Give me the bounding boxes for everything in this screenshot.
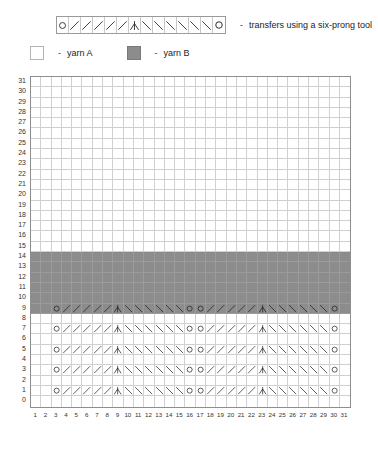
chart-cell[interactable]: [155, 170, 165, 180]
chart-cell[interactable]: [196, 77, 206, 87]
chart-cell[interactable]: [299, 262, 309, 272]
chart-cell[interactable]: [247, 221, 257, 231]
chart-cell[interactable]: [299, 242, 309, 252]
chart-cell[interactable]: [82, 355, 92, 365]
chart-cell[interactable]: [340, 118, 350, 128]
chart-cell[interactable]: [52, 304, 62, 314]
chart-cell[interactable]: [52, 118, 62, 128]
chart-cell[interactable]: [216, 345, 226, 355]
chart-cell[interactable]: [72, 324, 82, 334]
chart-cell[interactable]: [309, 211, 319, 221]
chart-cell[interactable]: [216, 273, 226, 283]
chart-cell[interactable]: [113, 118, 123, 128]
chart-cell[interactable]: [237, 355, 247, 365]
chart-cell[interactable]: [330, 180, 340, 190]
chart-cell[interactable]: [278, 324, 288, 334]
chart-cell[interactable]: [227, 396, 237, 406]
chart-cell[interactable]: [62, 159, 72, 169]
chart-cell[interactable]: [330, 242, 340, 252]
chart-cell[interactable]: [185, 108, 195, 118]
chart-cell[interactable]: [93, 334, 103, 344]
chart-cell[interactable]: [165, 211, 175, 221]
chart-cell[interactable]: [155, 221, 165, 231]
chart-cell[interactable]: [237, 128, 247, 138]
chart-cell[interactable]: [268, 190, 278, 200]
chart-cell[interactable]: [155, 190, 165, 200]
chart-cell[interactable]: [72, 211, 82, 221]
chart-cell[interactable]: [258, 293, 268, 303]
chart-cell[interactable]: [165, 77, 175, 87]
chart-cell[interactable]: [237, 273, 247, 283]
chart-cell[interactable]: [319, 139, 329, 149]
chart-cell[interactable]: [144, 376, 154, 386]
chart-cell[interactable]: [185, 149, 195, 159]
chart-cell[interactable]: [175, 87, 185, 97]
chart-cell[interactable]: [258, 118, 268, 128]
chart-cell[interactable]: [299, 149, 309, 159]
chart-cell[interactable]: [93, 190, 103, 200]
chart-cell[interactable]: [299, 324, 309, 334]
chart-cell[interactable]: [165, 345, 175, 355]
chart-cell[interactable]: [41, 118, 51, 128]
chart-cell[interactable]: [52, 190, 62, 200]
chart-cell[interactable]: [124, 262, 134, 272]
chart-cell[interactable]: [247, 190, 257, 200]
chart-cell[interactable]: [52, 87, 62, 97]
chart-cell[interactable]: [82, 180, 92, 190]
chart-cell[interactable]: [268, 211, 278, 221]
chart-cell[interactable]: [82, 396, 92, 406]
chart-cell[interactable]: [134, 386, 144, 396]
chart-cell[interactable]: [319, 293, 329, 303]
chart-cell[interactable]: [52, 139, 62, 149]
chart-cell[interactable]: [258, 376, 268, 386]
chart-cell[interactable]: [227, 262, 237, 272]
chart-cell[interactable]: [41, 77, 51, 87]
chart-cell[interactable]: [113, 304, 123, 314]
chart-cell[interactable]: [247, 376, 257, 386]
chart-cell[interactable]: [330, 304, 340, 314]
chart-cell[interactable]: [319, 252, 329, 262]
chart-cell[interactable]: [247, 396, 257, 406]
chart-cell[interactable]: [258, 304, 268, 314]
chart-cell[interactable]: [206, 304, 216, 314]
chart-cell[interactable]: [165, 149, 175, 159]
chart-cell[interactable]: [319, 314, 329, 324]
chart-cell[interactable]: [155, 355, 165, 365]
chart-cell[interactable]: [268, 252, 278, 262]
chart-cell[interactable]: [247, 242, 257, 252]
chart-cell[interactable]: [340, 262, 350, 272]
chart-cell[interactable]: [268, 159, 278, 169]
chart-cell[interactable]: [144, 87, 154, 97]
chart-cell[interactable]: [288, 334, 298, 344]
chart-cell[interactable]: [144, 98, 154, 108]
chart-cell[interactable]: [340, 345, 350, 355]
chart-cell[interactable]: [124, 180, 134, 190]
chart-cell[interactable]: [319, 365, 329, 375]
chart-cell[interactable]: [144, 242, 154, 252]
chart-cell[interactable]: [227, 190, 237, 200]
chart-cell[interactable]: [113, 77, 123, 87]
chart-cell[interactable]: [330, 98, 340, 108]
chart-cell[interactable]: [165, 386, 175, 396]
chart-cell[interactable]: [237, 242, 247, 252]
chart-cell[interactable]: [206, 108, 216, 118]
chart-cell[interactable]: [216, 108, 226, 118]
chart-cell[interactable]: [309, 159, 319, 169]
chart-cell[interactable]: [237, 252, 247, 262]
chart-cell[interactable]: [216, 231, 226, 241]
chart-cell[interactable]: [62, 201, 72, 211]
chart-cell[interactable]: [124, 304, 134, 314]
chart-cell[interactable]: [330, 221, 340, 231]
chart-cell[interactable]: [206, 314, 216, 324]
chart-cell[interactable]: [330, 108, 340, 118]
chart-cell[interactable]: [52, 128, 62, 138]
chart-cell[interactable]: [72, 87, 82, 97]
chart-cell[interactable]: [299, 159, 309, 169]
chart-cell[interactable]: [288, 139, 298, 149]
chart-cell[interactable]: [165, 180, 175, 190]
chart-cell[interactable]: [41, 170, 51, 180]
chart-cell[interactable]: [319, 262, 329, 272]
chart-cell[interactable]: [155, 108, 165, 118]
chart-cell[interactable]: [62, 128, 72, 138]
chart-cell[interactable]: [196, 324, 206, 334]
